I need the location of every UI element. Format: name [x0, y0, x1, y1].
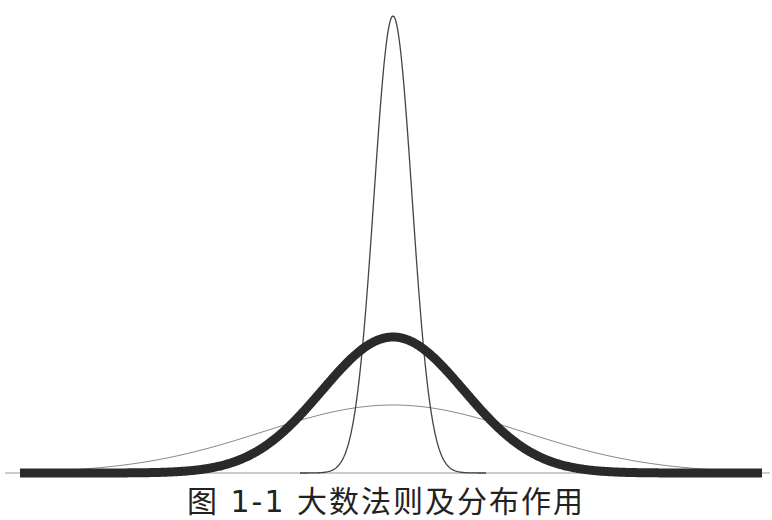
narrow-curve: [300, 16, 486, 473]
figure-caption: 图 1-1 大数法则及分布作用: [0, 484, 772, 520]
distribution-plot: [0, 0, 772, 490]
wide-curve: [20, 405, 762, 472]
curves-group: [20, 16, 762, 473]
